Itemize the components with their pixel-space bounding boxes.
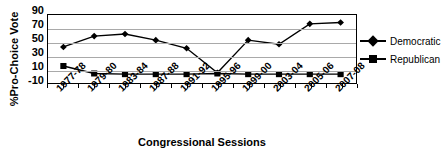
y-tick-label: 50 <box>32 33 44 43</box>
y-tick-label: 90 <box>32 5 44 15</box>
square-marker-icon <box>360 53 386 65</box>
legend-item-democratic: Democratic <box>360 32 442 50</box>
chart-container: %Pro-Choice Vote 9070503010-10 1977-7819… <box>0 0 442 157</box>
legend-label: Republican <box>386 54 440 65</box>
diamond-marker-icon <box>360 35 386 47</box>
y-axis-tick-labels: 9070503010-10 <box>18 10 44 88</box>
data-point-square <box>60 63 66 69</box>
x-axis-title: Congressional Sessions <box>47 136 357 148</box>
data-point-diamond <box>122 31 129 38</box>
x-axis-tick-labels: 1977-781979-801983-841987-881991-921995-… <box>47 86 377 126</box>
data-point-diamond <box>91 33 98 40</box>
y-tick-label: 70 <box>32 19 44 29</box>
legend-item-republican: Republican <box>360 50 442 68</box>
data-point-diamond <box>60 44 67 51</box>
y-tick-label: 10 <box>32 61 44 71</box>
y-tick-label: -10 <box>28 75 44 85</box>
legend-label: Democratic <box>386 36 441 47</box>
chart-legend: Democratic Republican <box>360 32 442 68</box>
gridline <box>48 57 356 58</box>
data-point-diamond <box>337 19 344 26</box>
gridline <box>48 29 356 30</box>
gridline <box>48 43 356 44</box>
y-tick-label: 30 <box>32 47 44 57</box>
